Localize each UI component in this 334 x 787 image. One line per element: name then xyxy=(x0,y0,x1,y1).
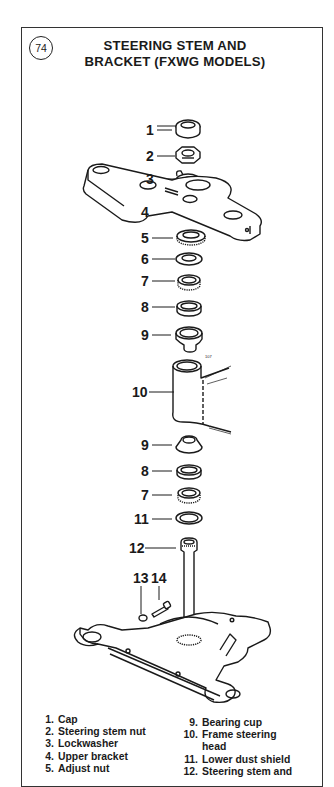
callout-1: 1 xyxy=(146,122,154,138)
callout-8-lower: 8 xyxy=(141,463,149,479)
legend-item: 12.Steering stem and xyxy=(178,766,318,778)
callout-6: 6 xyxy=(141,251,149,267)
part-frame-steering-head: 107 xyxy=(173,354,231,434)
part-14-bolt xyxy=(152,601,171,617)
callout-12: 12 xyxy=(129,540,145,556)
part-8-lower xyxy=(177,465,201,479)
legend-item: 10.Frame steering xyxy=(178,729,318,741)
part-8-upper xyxy=(177,301,201,316)
legend-item: 1.Cap xyxy=(38,714,178,726)
callout-13: 13 xyxy=(133,570,149,586)
legend-item-continuation: head xyxy=(178,741,318,753)
callout-14: 14 xyxy=(151,570,167,586)
part-7-lower xyxy=(178,488,200,503)
legend-right-column: 9.Bearing cup 10.Frame steering head 11.… xyxy=(178,717,318,778)
legend-item: 4.Upper bracket xyxy=(38,751,178,763)
callout-9: 9 xyxy=(141,327,149,343)
part-9-lower xyxy=(176,436,202,453)
part-cap xyxy=(176,120,200,138)
legend-item: 11.Lower dust shield xyxy=(178,754,318,766)
part-7-upper xyxy=(178,275,200,290)
part-steering-stem-nut xyxy=(176,147,200,163)
part-lower-dust-shield xyxy=(176,512,202,524)
callout-7-lower: 7 xyxy=(141,487,149,503)
callout-4: 4 xyxy=(141,204,149,220)
callout-8: 8 xyxy=(141,299,149,315)
callout-11: 11 xyxy=(134,511,149,527)
legend-item: 3.Lockwasher xyxy=(38,738,178,750)
legend-item: 5.Adjust nut xyxy=(38,763,178,775)
callout-2: 2 xyxy=(146,148,154,164)
legend-left-column: 1.Cap 2.Steering stem nut 3.Lockwasher 4… xyxy=(38,714,178,775)
callout-9-lower: 9 xyxy=(141,437,149,453)
part-13 xyxy=(139,615,147,621)
svg-text:107: 107 xyxy=(205,354,212,359)
part-6 xyxy=(176,253,202,265)
part-9-upper xyxy=(176,327,202,352)
legend-item: 9.Bearing cup xyxy=(178,717,318,729)
callout-7: 7 xyxy=(141,273,149,289)
part-steering-stem xyxy=(74,538,270,702)
callout-3: 3 xyxy=(146,171,154,187)
legend-item: 2.Steering stem nut xyxy=(38,726,178,738)
callout-10: 10 xyxy=(132,384,148,400)
part-adjust-nut xyxy=(177,230,205,245)
callout-5: 5 xyxy=(141,230,149,246)
part-upper-bracket xyxy=(83,164,261,241)
